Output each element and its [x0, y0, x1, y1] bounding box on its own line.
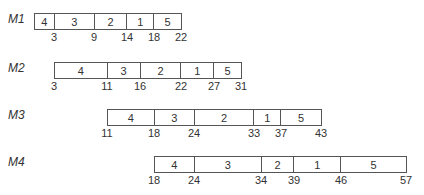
- time-tick-label: 18: [148, 31, 160, 43]
- job-segment: 5: [214, 63, 241, 78]
- time-tick-label: 18: [148, 127, 160, 139]
- machine-label: M3: [8, 108, 25, 122]
- machine-label: M2: [8, 61, 25, 75]
- job-segment: 4: [155, 157, 195, 172]
- job-segment: 3: [155, 110, 195, 125]
- job-segment: 5: [281, 110, 321, 125]
- machine-schedule-bar: 43215: [54, 62, 242, 79]
- job-segment: 4: [35, 14, 55, 29]
- time-tick-label: 39: [288, 174, 300, 186]
- machine-schedule-bar: 43215: [34, 13, 182, 30]
- time-tick-label: 31: [235, 80, 247, 92]
- machine-schedule-bar: 43215: [154, 156, 407, 173]
- job-segment: 4: [108, 110, 155, 125]
- time-tick-label: 27: [208, 80, 220, 92]
- job-segment: 3: [108, 63, 141, 78]
- time-tick-label: 57: [400, 174, 412, 186]
- time-tick-label: 3: [51, 31, 57, 43]
- job-segment: 2: [262, 157, 295, 172]
- job-segment: 1: [254, 110, 281, 125]
- time-tick-label: 11: [101, 127, 112, 139]
- job-segment: 3: [55, 14, 95, 29]
- job-segment: 2: [95, 14, 128, 29]
- time-tick-label: 22: [175, 80, 187, 92]
- job-segment: 5: [154, 14, 181, 29]
- machine-schedule-bar: 43215: [107, 109, 322, 126]
- time-tick-label: 16: [134, 80, 146, 92]
- machine-label: M4: [8, 155, 25, 169]
- job-segment: 2: [141, 63, 182, 78]
- job-segment: 5: [341, 157, 406, 172]
- time-tick-label: 24: [188, 127, 200, 139]
- time-tick-label: 46: [335, 174, 347, 186]
- time-tick-label: 37: [275, 127, 287, 139]
- time-tick-label: 22: [175, 31, 187, 43]
- time-tick-label: 24: [188, 174, 200, 186]
- time-tick-label: 34: [255, 174, 267, 186]
- machine-label: M1: [8, 12, 25, 26]
- job-segment: 3: [195, 157, 262, 172]
- job-segment: 1: [127, 14, 154, 29]
- time-tick-label: 3: [51, 80, 57, 92]
- job-segment: 1: [294, 157, 341, 172]
- time-tick-label: 9: [91, 31, 97, 43]
- job-segment: 2: [195, 110, 255, 125]
- job-segment: 1: [181, 63, 214, 78]
- time-tick-label: 11: [101, 80, 112, 92]
- job-segment: 4: [55, 63, 108, 78]
- time-tick-label: 14: [121, 31, 133, 43]
- time-tick-label: 18: [148, 174, 160, 186]
- time-tick-label: 33: [248, 127, 260, 139]
- time-tick-label: 43: [315, 127, 327, 139]
